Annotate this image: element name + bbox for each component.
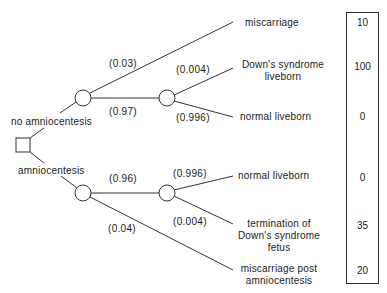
prob-continue: (0.97) (109, 106, 137, 118)
prob-amnio-miscarriage: (0.04) (108, 223, 136, 235)
prob-downs-liveborn: (0.004) (176, 64, 210, 76)
branch-amnio-to-node (61, 176, 77, 188)
chance-node-no-amnio (75, 90, 91, 106)
outcome-miscarriage-label: miscarriage (245, 17, 299, 29)
prob-amnio-termination: (0.004) (173, 216, 207, 228)
outcome-miscarriage-post-amnio-label: miscarriage post amniocentesis (234, 263, 324, 287)
branch-no-amnio-lead (30, 128, 44, 138)
utility-value: 35 (346, 220, 379, 232)
chance-node-amnio (75, 185, 91, 201)
decision-node (16, 138, 30, 152)
utility-value: 100 (346, 61, 379, 73)
branch-amnio-lead (30, 152, 44, 163)
prob-amnio-normal-liveborn: (0.996) (173, 168, 207, 180)
outcome-downs-liveborn-label: Down's syndrome liveborn (240, 59, 326, 83)
option-no-amniocentesis-label: no amniocentesis (11, 116, 92, 128)
outcome-termination-label: termination of Down's syndrome fetus (234, 218, 324, 254)
utility-value: 20 (346, 265, 379, 277)
utility-value: 0 (346, 111, 379, 123)
decision-tree-graphic (0, 0, 387, 293)
utility-column-box (346, 12, 379, 284)
prob-miscarriage: (0.03) (109, 58, 137, 70)
outcome-amnio-normal-liveborn-label: normal liveborn (238, 170, 309, 182)
outcome-normal-liveborn-label: normal liveborn (240, 111, 311, 123)
utility-value: 0 (346, 172, 379, 184)
chance-node-amnio-outcome (159, 185, 175, 201)
utility-value: 10 (346, 17, 379, 29)
option-amniocentesis-label: amniocentesis (18, 165, 85, 177)
branch-no-amnio-to-node (60, 102, 76, 113)
chance-node-no-amnio-outcome (159, 90, 175, 106)
prob-amnio-continue: (0.96) (109, 173, 137, 185)
prob-normal-liveborn: (0.996) (176, 112, 210, 124)
